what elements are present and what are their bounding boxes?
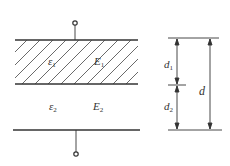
d2-dimension-arrow [175, 86, 179, 129]
field-e2-label: E2 [92, 100, 104, 114]
d1-dimension-arrow [175, 39, 179, 84]
epsilon-1-label: ε1 [48, 55, 56, 69]
d-dimension-arrow [208, 39, 212, 129]
capacitor-diagram: ε1 E1 ε2 E2 d1 d2 d [0, 0, 230, 166]
top-terminal [73, 21, 77, 40]
d2-label: d2 [164, 100, 174, 114]
field-e1-label: E1 [93, 55, 105, 69]
dielectric-layer-1-hatch [0, 40, 170, 84]
d1-label: d1 [164, 58, 174, 72]
d-label: d [199, 84, 206, 98]
bottom-terminal [74, 130, 78, 156]
epsilon-2-label: ε2 [49, 100, 57, 114]
